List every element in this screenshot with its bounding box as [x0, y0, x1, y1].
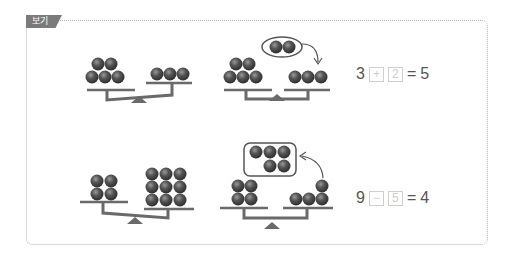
- operator-box: +: [369, 67, 384, 82]
- balance-scales-illustration: [0, 0, 512, 261]
- equals-sign: =: [407, 189, 416, 207]
- operand-a: 9: [356, 189, 365, 207]
- equation-subtraction: 9 − 5 = 4: [356, 189, 429, 207]
- result: 5: [420, 65, 429, 83]
- result: 4: [420, 189, 429, 207]
- operand-b-box: 5: [388, 191, 403, 206]
- equation-addition: 3 + 2 = 5: [356, 65, 429, 83]
- scale-2: [224, 37, 331, 101]
- operand-b-box: 2: [388, 67, 403, 82]
- scale-3: [80, 168, 194, 225]
- operator-box: −: [369, 191, 384, 206]
- equals-sign: =: [407, 65, 416, 83]
- scale-4: [220, 143, 333, 229]
- operand-a: 3: [356, 65, 365, 83]
- scale-1: [86, 58, 193, 104]
